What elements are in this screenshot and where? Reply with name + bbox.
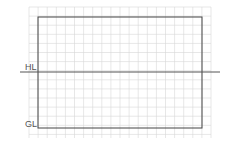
ground-line-label: GL [25,119,37,129]
perspective-grid-diagram: HL GL [0,0,229,148]
horizon-line-label: HL [25,62,37,72]
